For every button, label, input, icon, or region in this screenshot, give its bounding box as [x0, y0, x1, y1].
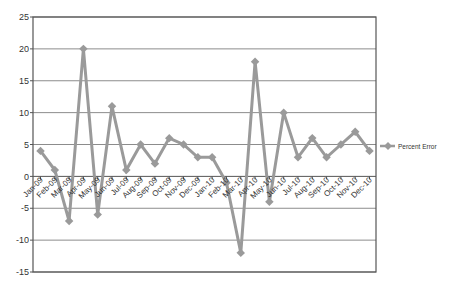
y-tick-label: 25 [19, 12, 29, 22]
legend: Percent Error [380, 142, 437, 150]
data-point-marker [108, 102, 116, 110]
data-point-marker [79, 45, 87, 53]
legend-label: Percent Error [398, 143, 437, 150]
data-point-marker [65, 217, 73, 225]
y-tick-label: 20 [19, 44, 29, 54]
series-line [41, 49, 370, 253]
y-tick-label: 10 [19, 108, 29, 118]
x-axis-ticks: Jan-09Feb-09Mar-09Apr-09May-09Jun-09Jul-… [21, 175, 374, 201]
data-point-marker [251, 57, 259, 65]
data-point-marker [93, 210, 101, 218]
y-tick-label: 15 [19, 76, 29, 86]
legend-marker-icon [384, 142, 392, 150]
y-tick-label: -10 [16, 235, 29, 245]
data-point-marker [237, 249, 245, 257]
y-axis-ticks: 2520151050-5-10-15 [16, 12, 33, 277]
y-tick-label: -5 [21, 203, 29, 213]
line-chart: 2520151050-5-10-15 Jan-09Feb-09Mar-09Apr… [0, 0, 453, 291]
data-point-marker [279, 108, 287, 116]
y-tick-label: 0 [24, 172, 29, 182]
y-tick-label: 5 [24, 140, 29, 150]
y-tick-label: -15 [16, 267, 29, 277]
series-percent-error [36, 45, 373, 257]
